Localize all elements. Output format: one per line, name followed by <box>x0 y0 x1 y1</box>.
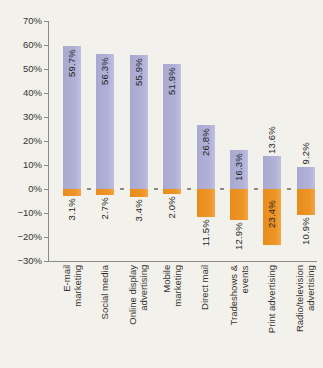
y-axis-tick <box>44 69 48 70</box>
category-label: Direct mail <box>200 265 211 310</box>
bar-negative <box>130 189 148 197</box>
category-label: Online display advertising <box>128 265 149 325</box>
bar-negative <box>63 189 81 196</box>
category-axis-tick <box>287 188 291 190</box>
category-axis-tick <box>120 188 124 190</box>
category-label: E-mail marketing <box>62 265 83 307</box>
y-axis-tick-label: 20% <box>8 135 42 147</box>
bar-negative <box>230 189 248 220</box>
bar-value-label-negative: 3.4% <box>133 199 145 221</box>
bar-value-label-negative: 23.4% <box>266 200 278 228</box>
category-label: Tradeshows & events <box>229 265 250 325</box>
bar-positive <box>297 167 315 189</box>
bar-value-label-negative: 11.5% <box>200 219 212 246</box>
y-axis-tick <box>44 261 48 262</box>
bar-value-label-negative: 2.7% <box>99 197 111 219</box>
y-axis-tick-label: 30% <box>8 111 42 123</box>
category-label: Social media <box>100 265 111 319</box>
y-axis-tick-label: 60% <box>8 39 42 51</box>
bar-value-label-negative: 10.9% <box>300 217 312 245</box>
y-axis-tick <box>44 21 48 22</box>
y-axis-line <box>48 21 49 261</box>
y-axis-tick-label: −30% <box>8 255 42 267</box>
bar-value-label-negative: 12.9% <box>233 222 245 250</box>
bar-value-label-positive: 9.2% <box>300 142 312 164</box>
bar-value-label-positive: 55.9% <box>133 58 145 86</box>
category-label: Mobile marketing <box>162 265 183 307</box>
x-axis-line <box>48 261 317 262</box>
bar-value-label-negative: 3.1% <box>66 198 78 220</box>
category-axis-tick <box>254 188 258 190</box>
y-axis-tick-label: 0% <box>8 183 42 195</box>
bar-value-label-positive: 59.7% <box>66 49 78 77</box>
y-axis-tick <box>44 189 48 190</box>
bar-positive <box>263 156 281 189</box>
bar-value-label-positive: 16.3% <box>233 153 245 181</box>
scanned-bar-chart-figure: 70%60%50%40%30%20%10%0%−10%−20%−30%59.7%… <box>0 0 323 368</box>
category-axis-tick <box>187 188 191 190</box>
bar-negative <box>96 189 114 195</box>
y-axis-tick-label: −10% <box>8 207 42 219</box>
y-axis-tick <box>44 165 48 166</box>
category-axis-tick <box>154 188 158 190</box>
y-axis-tick-label: −20% <box>8 231 42 243</box>
bar-value-label-negative: 2.0% <box>166 196 178 218</box>
y-axis-tick <box>44 45 48 46</box>
bar-negative <box>163 189 181 194</box>
y-axis-tick <box>44 213 48 214</box>
bar-value-label-positive: 51.9% <box>166 67 178 95</box>
y-axis-tick <box>44 237 48 238</box>
bar-value-label-positive: 26.8% <box>200 128 212 156</box>
y-axis-tick-label: 40% <box>8 87 42 99</box>
bar-value-label-positive: 13.6% <box>266 126 278 154</box>
y-axis-tick <box>44 93 48 94</box>
bar-negative <box>197 189 215 217</box>
y-axis-tick-label: 50% <box>8 63 42 75</box>
category-label: Radio/television advertising <box>295 265 316 332</box>
bar-value-label-positive: 56.3% <box>99 57 111 85</box>
y-axis-tick-label: 10% <box>8 159 42 171</box>
category-label: Print advertising <box>267 265 278 333</box>
y-axis-tick-label: 70% <box>8 15 42 27</box>
category-axis-tick <box>220 188 224 190</box>
y-axis-tick <box>44 141 48 142</box>
y-axis-tick <box>44 117 48 118</box>
bar-negative <box>297 189 315 215</box>
category-axis-tick <box>87 188 91 190</box>
